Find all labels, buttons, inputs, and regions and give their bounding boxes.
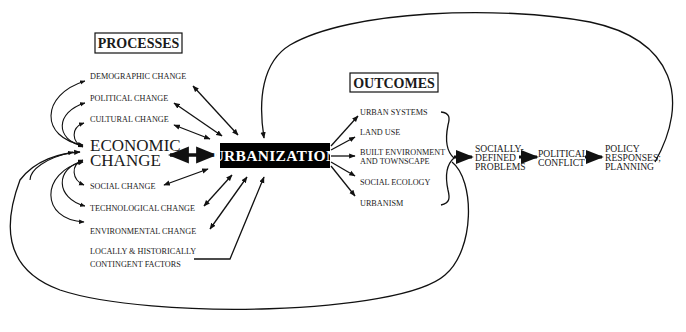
process-social: SOCIAL CHANGE — [90, 182, 155, 191]
feedback-loop-bottom — [10, 152, 468, 309]
process-contingent-line2: CONTINGENT FACTORS — [90, 260, 181, 269]
processes-header-label: PROCESSES — [98, 36, 180, 51]
urbanization-to-outcomes-arrows — [331, 116, 358, 196]
outcome-social-ecology: SOCIAL ECOLOGY — [360, 178, 431, 187]
outcomes-header-label: OUTCOMES — [353, 76, 435, 91]
processes-header: PROCESSES — [95, 33, 182, 53]
process-cultural: CULTURAL CHANGE — [90, 115, 169, 124]
process-environmental: ENVIRONMENTAL CHANGE — [90, 227, 196, 236]
process-economic-line2: CHANGE — [90, 151, 161, 170]
urbanization-label: URBANIZATION — [213, 147, 338, 164]
outcomes-header: OUTCOMES — [350, 73, 438, 92]
outcomes-brace — [441, 112, 454, 205]
chain-policy-responses-line3: PLANNING — [605, 161, 654, 172]
process-demographic: DEMOGRAPHIC CHANGE — [90, 72, 186, 81]
outcome-land-use: LAND USE — [360, 128, 400, 137]
process-political: POLITICAL CHANGE — [90, 94, 168, 103]
chain-socially-defined-line3: PROBLEMS — [475, 161, 526, 172]
urbanization-box: URBANIZATION — [213, 143, 338, 168]
outcome-urbanism: URBANISM — [360, 199, 404, 208]
urbanization-diagram: PROCESSES DEMOGRAPHIC CHANGE POLITICAL C… — [0, 0, 686, 332]
outcome-urban-systems: URBAN SYSTEMS — [360, 108, 428, 117]
outcome-built-environment-line2: AND TOWNSCAPE — [360, 157, 430, 166]
outcome-built-environment-line1: BUILT ENVIRONMENT — [360, 148, 445, 157]
chain-political-conflict-line2: CONFLICT — [538, 157, 585, 168]
feedback-loop-top — [262, 13, 673, 162]
process-contingent-line1: LOCALLY & HISTORICALLY — [90, 247, 196, 256]
process-technological: TECHNOLOGICAL CHANGE — [90, 204, 195, 213]
economic-curved-links — [30, 81, 85, 222]
